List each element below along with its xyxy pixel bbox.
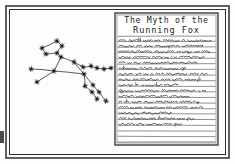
page-title-line-1: The Myth of the (124, 15, 208, 25)
sketch-drawing: The Myth of the Running Fox (0, 0, 235, 164)
sketch-canvas: The Myth of the Running Fox (0, 0, 235, 164)
star-marker (44, 52, 49, 56)
star-marker (94, 96, 99, 101)
star-marker (95, 66, 99, 71)
edge-smudge (0, 131, 4, 143)
notebook-page: The Myth of the Running Fox (115, 13, 218, 145)
star-marker (81, 72, 86, 76)
page-title-line-2: Running Fox (133, 25, 200, 35)
